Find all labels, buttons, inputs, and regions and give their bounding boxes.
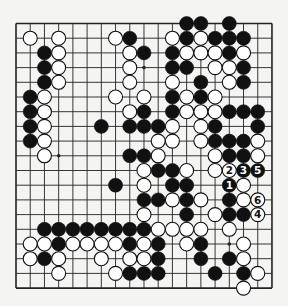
black-stone xyxy=(222,31,236,45)
move-number-label: 4 xyxy=(254,208,261,220)
white-stone xyxy=(208,61,222,75)
black-stone xyxy=(94,119,108,133)
black-stone xyxy=(80,222,94,236)
white-stone: 4 xyxy=(251,208,265,222)
move-number-label: 2 xyxy=(226,164,233,176)
black-stone xyxy=(37,222,51,236)
star-point xyxy=(57,154,61,158)
black-stone: 1 xyxy=(222,178,236,192)
white-stone xyxy=(123,252,137,266)
black-stone xyxy=(151,237,165,251)
black-stone xyxy=(165,61,179,75)
white-stone xyxy=(137,164,151,178)
black-stone xyxy=(37,46,51,60)
white-stone xyxy=(52,252,66,266)
black-stone xyxy=(137,119,151,133)
white-stone xyxy=(180,46,194,60)
white-stone xyxy=(109,237,123,251)
black-stone xyxy=(222,134,236,148)
white-stone xyxy=(52,46,66,60)
white-stone xyxy=(194,46,208,60)
white-stone xyxy=(165,193,179,207)
black-stone xyxy=(123,119,137,133)
white-stone xyxy=(222,75,236,89)
white-stone xyxy=(165,119,179,133)
black-stone xyxy=(194,17,208,31)
white-stone xyxy=(237,281,251,295)
white-stone: 2 xyxy=(222,164,236,178)
white-stone xyxy=(237,252,251,266)
white-stone xyxy=(208,90,222,104)
white-stone xyxy=(37,149,51,163)
black-stone xyxy=(208,134,222,148)
black-stone xyxy=(165,46,179,60)
white-stone xyxy=(165,134,179,148)
black-stone xyxy=(237,266,251,280)
black-stone xyxy=(151,266,165,280)
black-stone xyxy=(180,61,194,75)
white-stone xyxy=(52,61,66,75)
black-stone xyxy=(151,164,165,178)
white-stone xyxy=(237,46,251,60)
move-number-label: 6 xyxy=(254,194,261,206)
white-stone xyxy=(23,237,37,251)
black-stone xyxy=(208,266,222,280)
white-stone xyxy=(109,31,123,45)
white-stone xyxy=(52,75,66,89)
black-stone xyxy=(123,266,137,280)
black-stone xyxy=(222,193,236,207)
black-stone xyxy=(194,90,208,104)
black-stone xyxy=(123,222,137,236)
black-stone xyxy=(37,61,51,75)
white-stone xyxy=(165,222,179,236)
black-stone xyxy=(151,252,165,266)
white-stone xyxy=(151,149,165,163)
black-stone xyxy=(180,17,194,31)
black-stone xyxy=(194,237,208,251)
black-stone xyxy=(180,31,194,45)
white-stone xyxy=(151,222,165,236)
white-stone xyxy=(37,134,51,148)
black-stone xyxy=(208,119,222,133)
move-number-label: 5 xyxy=(254,164,261,176)
black-stone xyxy=(237,31,251,45)
white-stone xyxy=(208,105,222,119)
black-stone xyxy=(66,222,80,236)
white-stone xyxy=(237,193,251,207)
white-stone xyxy=(180,164,194,178)
white-stone xyxy=(180,237,194,251)
black-stone xyxy=(237,61,251,75)
black-stone xyxy=(222,252,236,266)
black-stone xyxy=(23,119,37,133)
black-stone xyxy=(137,266,151,280)
black-stone xyxy=(165,178,179,192)
white-stone xyxy=(123,105,137,119)
black-stone xyxy=(208,31,222,45)
white-stone xyxy=(37,119,51,133)
white-stone xyxy=(165,75,179,89)
white-stone xyxy=(208,208,222,222)
white-stone xyxy=(37,90,51,104)
white-stone xyxy=(23,252,37,266)
black-stone xyxy=(194,75,208,89)
white-stone xyxy=(80,237,94,251)
black-stone xyxy=(180,193,194,207)
white-stone xyxy=(194,222,208,236)
move-number-label: 3 xyxy=(240,164,247,176)
white-stone xyxy=(52,266,66,280)
black-stone xyxy=(52,222,66,236)
white-stone xyxy=(194,134,208,148)
black-stone xyxy=(222,46,236,60)
black-stone xyxy=(123,237,137,251)
black-stone xyxy=(180,208,194,222)
black-stone xyxy=(151,119,165,133)
black-stone xyxy=(109,222,123,236)
black-stone xyxy=(123,149,137,163)
black-stone xyxy=(137,222,151,236)
black-stone xyxy=(37,252,51,266)
black-stone xyxy=(137,193,151,207)
black-stone xyxy=(52,237,66,251)
white-stone xyxy=(94,237,108,251)
black-stone xyxy=(137,149,151,163)
white-stone xyxy=(251,134,265,148)
